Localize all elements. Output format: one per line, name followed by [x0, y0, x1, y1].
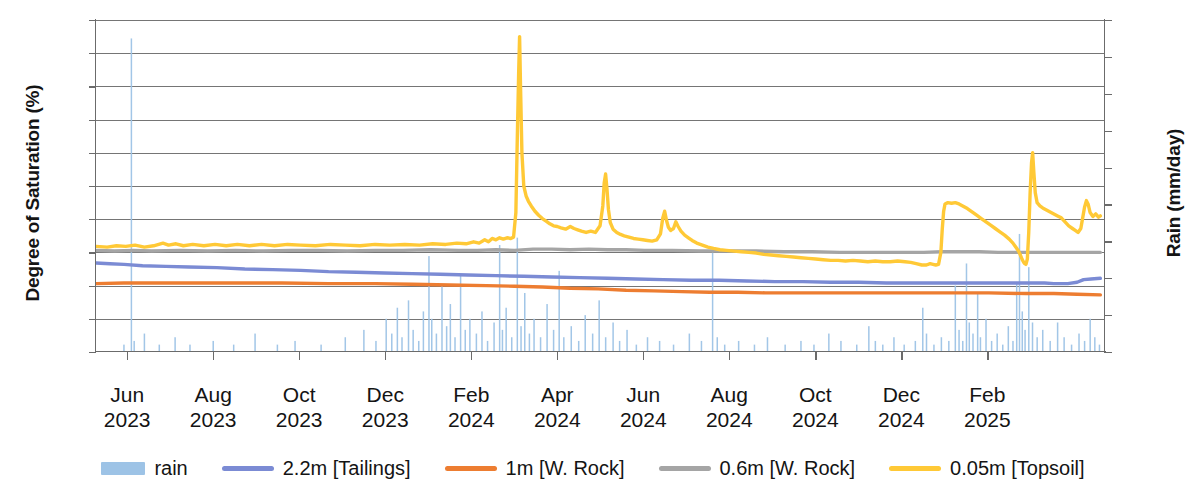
y-axis-right-tick	[1105, 20, 1112, 21]
rain-bar	[592, 334, 594, 352]
rain-bar	[717, 337, 719, 352]
x-axis-tick	[299, 352, 300, 360]
legend-swatch-line-icon	[659, 466, 711, 471]
rain-bar	[571, 326, 573, 352]
rain-bar	[412, 330, 414, 352]
rain-bar	[969, 322, 971, 352]
rain-bar	[363, 330, 365, 352]
rain-bar	[767, 337, 769, 352]
y-axis-right-tick	[1105, 168, 1112, 169]
legend-swatch-box-icon	[101, 462, 145, 475]
rain-bar	[689, 334, 691, 352]
legend-item[interactable]: rain	[101, 458, 187, 478]
rain-bar	[254, 334, 256, 352]
rain-bar	[1094, 337, 1096, 352]
rain-bar	[502, 330, 504, 352]
rain-bar	[408, 300, 410, 352]
rain-bar	[1063, 337, 1065, 352]
x-tick-year: 2025	[932, 407, 1042, 432]
x-axis-tick	[557, 352, 558, 360]
rain-bar	[131, 38, 133, 352]
rain-bar	[922, 308, 924, 352]
y-axis-right-tick	[1105, 131, 1112, 132]
rain-bar	[926, 334, 928, 352]
legend-item[interactable]: 0.05m [Topsoil]	[889, 458, 1085, 478]
legend-item[interactable]: 2.2m [Tailings]	[222, 458, 411, 478]
rain-bar	[985, 319, 987, 352]
x-axis-tick	[127, 352, 128, 360]
y-axis-left-tick	[89, 186, 96, 187]
series-0-05m-topsoil-	[96, 37, 1100, 265]
rain-bar	[476, 334, 478, 352]
rain-bar	[546, 304, 548, 352]
legend-label: 2.2m [Tailings]	[283, 458, 411, 478]
x-axis-tick	[729, 352, 730, 360]
x-axis-tick-label: Feb2025	[932, 382, 1042, 432]
rain-bar	[469, 319, 471, 352]
rain-bar	[385, 319, 387, 352]
saturation-rain-chart: Degree of Saturation (%) Rain (mm/day) 7…	[0, 0, 1186, 488]
y-axis-left-tick	[89, 219, 96, 220]
rain-bar	[647, 337, 649, 352]
legend-label: rain	[154, 458, 187, 478]
rain-bar	[1024, 330, 1026, 352]
series-line	[96, 263, 1100, 284]
rain-bar	[1042, 330, 1044, 352]
rain-bar	[446, 326, 448, 352]
rain-bar	[441, 286, 443, 352]
y-axis-left-tick	[89, 20, 96, 21]
rain-bar	[1078, 334, 1080, 352]
chart-legend: rain2.2m [Tailings]1m [W. Rock]0.6m [W. …	[0, 448, 1186, 488]
rain-bar	[464, 330, 466, 352]
rain-bar	[505, 308, 507, 352]
rain-bar	[955, 286, 957, 352]
y-axis-right-tick	[1105, 315, 1112, 316]
rain-bar	[893, 337, 895, 352]
x-axis-line	[95, 351, 1106, 352]
rain-bar	[431, 319, 433, 352]
y-axis-left-title: Degree of Saturation (%)	[22, 33, 44, 353]
rain-bar	[966, 263, 968, 352]
rain-bar	[524, 293, 526, 352]
y-axis-left-tick	[89, 352, 96, 353]
series-line	[96, 37, 1100, 265]
rain-bar	[598, 300, 600, 352]
y-axis-left-tick	[89, 53, 96, 54]
rain-bar	[612, 322, 614, 352]
rain-bar	[958, 330, 960, 352]
rain-bar	[529, 334, 531, 352]
rain-bar	[1032, 322, 1034, 352]
series-2-2m-tailings-	[96, 263, 1100, 284]
rain-bar	[868, 326, 870, 352]
series-rain	[123, 38, 1100, 352]
rain-bar	[1057, 322, 1059, 352]
series-line	[96, 283, 1100, 295]
rain-bar	[345, 337, 347, 352]
rain-bar	[174, 337, 176, 352]
legend-item[interactable]: 0.6m [W. Rock]	[659, 458, 856, 478]
rain-bar	[540, 337, 542, 352]
y-axis-left-tick	[89, 252, 96, 253]
rain-bar	[499, 245, 501, 352]
y-axis-right-tick	[1105, 204, 1112, 205]
rain-bar	[828, 334, 830, 352]
y-axis-left-tick	[89, 319, 96, 320]
legend-item[interactable]: 1m [W. Rock]	[445, 458, 625, 478]
legend-label: 0.05m [Topsoil]	[950, 458, 1085, 478]
y-axis-left-tick	[89, 86, 96, 87]
legend-label: 0.6m [W. Rock]	[720, 458, 856, 478]
legend-swatch-line-icon	[445, 466, 497, 471]
x-axis-tick	[643, 352, 644, 360]
rain-bar	[450, 304, 452, 352]
rain-bar	[980, 337, 982, 352]
rain-bar	[428, 256, 430, 352]
rain-bar	[977, 293, 979, 352]
y-axis-left-tick	[89, 286, 96, 287]
rain-bar	[1022, 311, 1024, 352]
rain-bar	[391, 334, 393, 352]
x-axis-tick	[987, 352, 988, 360]
x-axis-tick	[213, 352, 214, 360]
rain-bar	[558, 271, 560, 352]
series-1m-w-rock-	[96, 283, 1100, 295]
y-axis-right-tick	[1105, 241, 1112, 242]
